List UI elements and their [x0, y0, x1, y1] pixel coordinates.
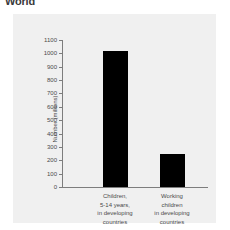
- category-label-line: Working: [140, 192, 204, 201]
- y-tick-mark: [59, 134, 63, 135]
- y-tick-mark: [59, 187, 63, 188]
- bar[interactable]: [160, 154, 185, 187]
- category-label-line: countries: [140, 218, 204, 227]
- y-axis-line: [62, 40, 63, 188]
- category-label-line: in developing: [83, 209, 147, 218]
- category-label-line: children: [140, 201, 204, 210]
- y-tick-label: 0: [54, 184, 57, 190]
- y-tick-label: 700: [47, 90, 57, 96]
- y-tick-label: 400: [47, 131, 57, 137]
- page-heading: World: [5, 0, 65, 7]
- x-axis-line: [62, 187, 208, 188]
- category-label-line: countries: [83, 218, 147, 227]
- y-tick-mark: [59, 67, 63, 68]
- y-tick-label: 500: [47, 117, 57, 123]
- chart-panel: Number (millions) 1100100090080070060050…: [13, 14, 216, 223]
- bar[interactable]: [103, 51, 128, 187]
- y-tick-mark: [59, 93, 63, 94]
- y-tick-label: 600: [47, 104, 57, 110]
- plot-area: 110010009008007006005004003002001000 Chi…: [62, 40, 208, 188]
- y-tick-mark: [59, 107, 63, 108]
- y-tick-label: 900: [47, 64, 57, 70]
- chart-page: World Number (millions) 1100100090080070…: [0, 0, 230, 230]
- category-label: Children,5-14 years,in developingcountri…: [83, 192, 147, 226]
- y-tick-mark: [59, 40, 63, 41]
- y-tick-mark: [59, 160, 63, 161]
- y-tick-label: 300: [47, 144, 57, 150]
- y-tick-label: 100: [47, 171, 57, 177]
- y-tick-mark: [59, 120, 63, 121]
- page-heading-text: World: [5, 0, 65, 7]
- y-tick-mark: [59, 147, 63, 148]
- y-tick-label: 800: [47, 77, 57, 83]
- category-label-line: in developing: [140, 209, 204, 218]
- y-tick-mark: [59, 174, 63, 175]
- y-tick-mark: [59, 53, 63, 54]
- category-label-line: Children,: [83, 192, 147, 201]
- y-tick-mark: [59, 80, 63, 81]
- y-tick-label: 200: [47, 157, 57, 163]
- category-label: Workingchildrenin developingcountries: [140, 192, 204, 226]
- y-tick-label: 1000: [44, 50, 57, 56]
- category-label-line: 5-14 years,: [83, 201, 147, 210]
- y-tick-label: 1100: [44, 37, 57, 43]
